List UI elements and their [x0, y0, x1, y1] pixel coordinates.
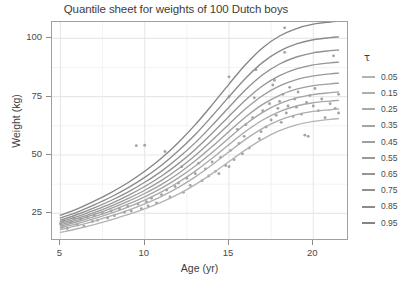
legend-item-label: 0.05	[381, 73, 398, 82]
legend-item-label: 0.15	[381, 89, 398, 98]
y-tick-label: 25	[16, 206, 42, 217]
x-axis-title: Age (yr)	[51, 262, 348, 274]
x-tick-label: 10	[132, 247, 156, 258]
y-tick-label: 50	[16, 148, 42, 159]
legend-item-0.55[interactable]: 0.55	[362, 150, 418, 166]
legend-item-0.95[interactable]: 0.95	[362, 215, 418, 231]
y-tick-label: 100	[16, 31, 42, 42]
plot-panel	[51, 21, 348, 240]
legend-key-line	[362, 108, 375, 110]
legend-item-0.45[interactable]: 0.45	[362, 134, 418, 150]
legend: τ 0.050.150.250.350.450.550.650.750.850.…	[362, 52, 418, 231]
legend-key-line	[362, 141, 375, 143]
x-tick	[144, 240, 145, 245]
legend-items: 0.050.150.250.350.450.550.650.750.850.95	[362, 69, 418, 231]
legend-item-0.15[interactable]: 0.15	[362, 85, 418, 101]
legend-key-line	[362, 125, 375, 127]
legend-item-label: 0.75	[381, 186, 398, 195]
legend-item-0.25[interactable]: 0.25	[362, 101, 418, 117]
legend-item-0.85[interactable]: 0.85	[362, 199, 418, 215]
legend-key-line	[362, 157, 375, 159]
y-tick-label: 75	[16, 90, 42, 101]
legend-item-0.35[interactable]: 0.35	[362, 118, 418, 134]
chart-title: Quantile sheet for weights of 100 Dutch …	[0, 3, 352, 15]
legend-key-line	[362, 76, 375, 78]
legend-item-label: 0.95	[381, 219, 398, 228]
x-tick	[228, 240, 229, 245]
plot-area	[52, 22, 347, 239]
chart-root: Quantile sheet for weights of 100 Dutch …	[0, 0, 418, 281]
x-tick	[312, 240, 313, 245]
legend-item-0.75[interactable]: 0.75	[362, 182, 418, 198]
legend-key-line	[362, 173, 375, 175]
legend-item-label: 0.65	[381, 170, 398, 179]
legend-item-label: 0.25	[381, 105, 398, 114]
legend-title: τ	[364, 52, 418, 63]
x-tick-label: 15	[216, 247, 240, 258]
x-tick	[59, 240, 60, 245]
legend-item-0.65[interactable]: 0.65	[362, 166, 418, 182]
x-tick-label: 5	[47, 247, 71, 258]
legend-item-label: 0.35	[381, 121, 398, 130]
legend-item-label: 0.45	[381, 138, 398, 147]
legend-key-line	[362, 92, 375, 94]
legend-key-line	[362, 222, 375, 224]
x-tick-label: 20	[300, 247, 324, 258]
legend-item-label: 0.55	[381, 154, 398, 163]
legend-item-0.05[interactable]: 0.05	[362, 69, 418, 85]
legend-key-line	[362, 189, 375, 191]
legend-item-label: 0.85	[381, 202, 398, 211]
legend-key-line	[362, 206, 375, 208]
